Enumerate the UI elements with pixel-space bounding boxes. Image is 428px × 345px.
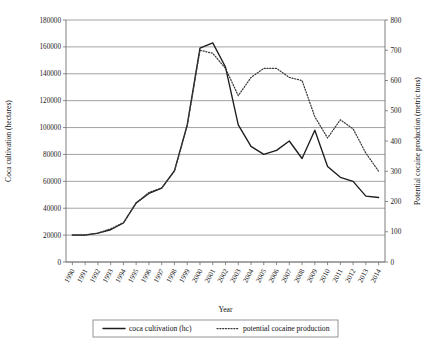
y-right-tick-label: 800 [391,17,402,25]
x-axis-title: Year [219,305,233,314]
y-right-tick-label: 100 [391,228,402,236]
y-right-tick-label: 300 [391,168,402,176]
y-left-tick-label: 20000 [43,232,61,240]
y-right-axis-title: Potential cocaine production (metric ton… [413,77,422,205]
y-right-tick-label: 600 [391,77,402,85]
y-right-tick-label: 500 [391,107,402,115]
y-left-tick-label: 40000 [43,205,61,213]
y-right-tick-label: 200 [391,198,402,206]
y-left-tick-label: 80000 [43,151,61,159]
legend-label: coca cultivation (hc) [129,324,192,333]
y-left-tick-label: 60000 [43,178,61,186]
y-left-tick-label: 120000 [39,97,61,105]
y-left-tick-label: 140000 [39,70,61,78]
y-left-tick-label: 0 [57,259,61,267]
legend-label: potential cocaine production [243,324,330,333]
y-left-axis-title: Coca cultivation (hectares) [4,100,13,182]
y-left-tick-label: 160000 [39,43,61,51]
y-left-tick-label: 100000 [39,124,61,132]
y-left-tick-label: 180000 [39,17,61,25]
y-right-tick-label: 400 [391,138,402,146]
y-right-tick-label: 700 [391,47,402,55]
y-right-tick-label: 0 [391,259,395,267]
chart-background [0,0,428,345]
chart-figure: 0200004000060000800001000001200001400001… [0,0,428,345]
coca-cultivation-chart: 0200004000060000800001000001200001400001… [0,0,428,345]
